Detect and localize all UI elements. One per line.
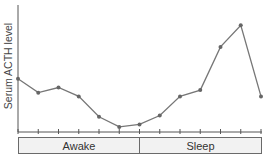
phase-sleep-label: Sleep bbox=[186, 140, 214, 152]
data-point bbox=[198, 88, 202, 92]
data-point bbox=[178, 94, 182, 98]
data-point bbox=[117, 125, 121, 129]
data-point bbox=[219, 45, 223, 49]
data-point bbox=[239, 23, 243, 27]
phase-awake: Awake bbox=[18, 137, 140, 154]
data-point bbox=[97, 115, 101, 119]
data-point bbox=[36, 91, 40, 95]
acth-series-markers bbox=[16, 23, 263, 129]
data-point bbox=[259, 94, 263, 98]
data-point bbox=[16, 77, 20, 81]
data-point bbox=[77, 94, 81, 98]
y-axis-label-text: Serum ACTH level bbox=[2, 23, 14, 109]
data-point bbox=[57, 86, 61, 90]
data-point bbox=[138, 122, 142, 126]
acth-series-line bbox=[18, 25, 261, 127]
phase-awake-label: Awake bbox=[63, 140, 96, 152]
phase-sleep: Sleep bbox=[139, 137, 262, 154]
acth-line-chart bbox=[0, 0, 265, 159]
y-axis-label: Serum ACTH level bbox=[1, 6, 15, 126]
data-point bbox=[158, 113, 162, 117]
